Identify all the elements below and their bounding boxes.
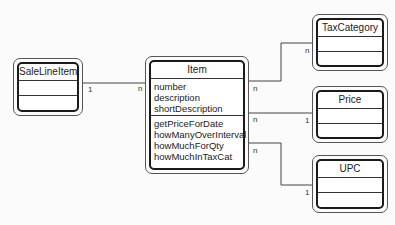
attribute: description [154, 92, 240, 103]
class-upc[interactable]: UPC [312, 155, 388, 213]
attributes-section [19, 81, 77, 96]
class-name: Price [318, 92, 382, 109]
assoc-item-upc [248, 143, 312, 185]
assoc-item-taxCategory [248, 43, 312, 81]
multiplicity-item-upc-end: n [253, 146, 257, 155]
operation: howMuchInTaxCat [154, 151, 240, 162]
attributes-section [318, 37, 382, 52]
operations-section: getPriceForDate howManyOverInterval howM… [151, 116, 243, 168]
operations-section [318, 124, 382, 138]
class-item[interactable]: Item number description shortDescription… [145, 56, 249, 174]
multiplicity-item-end: n [138, 84, 142, 93]
multiplicity-taxcategory-end: n [305, 46, 309, 55]
multiplicity-item-taxcat-end: n [253, 84, 257, 93]
class-price[interactable]: Price [312, 86, 388, 143]
class-name: Item [151, 62, 243, 79]
multiplicity-upc-end: 1 [305, 188, 309, 197]
multiplicity-item-price-end: n [253, 115, 257, 124]
operation: getPriceForDate [154, 118, 240, 129]
attributes-section: number description shortDescription [151, 79, 243, 116]
class-sale-line-item[interactable]: SaleLineItem [13, 58, 83, 116]
attributes-section [318, 109, 382, 124]
attribute: number [154, 81, 240, 92]
operation: howMuchForQty [154, 140, 240, 151]
operations-section [318, 193, 382, 207]
operation: howManyOverInterval [154, 129, 240, 140]
attributes-section [318, 178, 382, 193]
class-name: SaleLineItem [19, 64, 77, 81]
operations-section [318, 52, 382, 66]
operations-section [19, 96, 77, 110]
class-name: UPC [318, 161, 382, 178]
attribute: shortDescription [154, 103, 240, 114]
multiplicity-price-end: 1 [305, 116, 309, 125]
class-tax-category[interactable]: TaxCategory [312, 14, 388, 71]
multiplicity-saleLineItem-end: 1 [88, 85, 92, 94]
class-name: TaxCategory [318, 20, 382, 37]
